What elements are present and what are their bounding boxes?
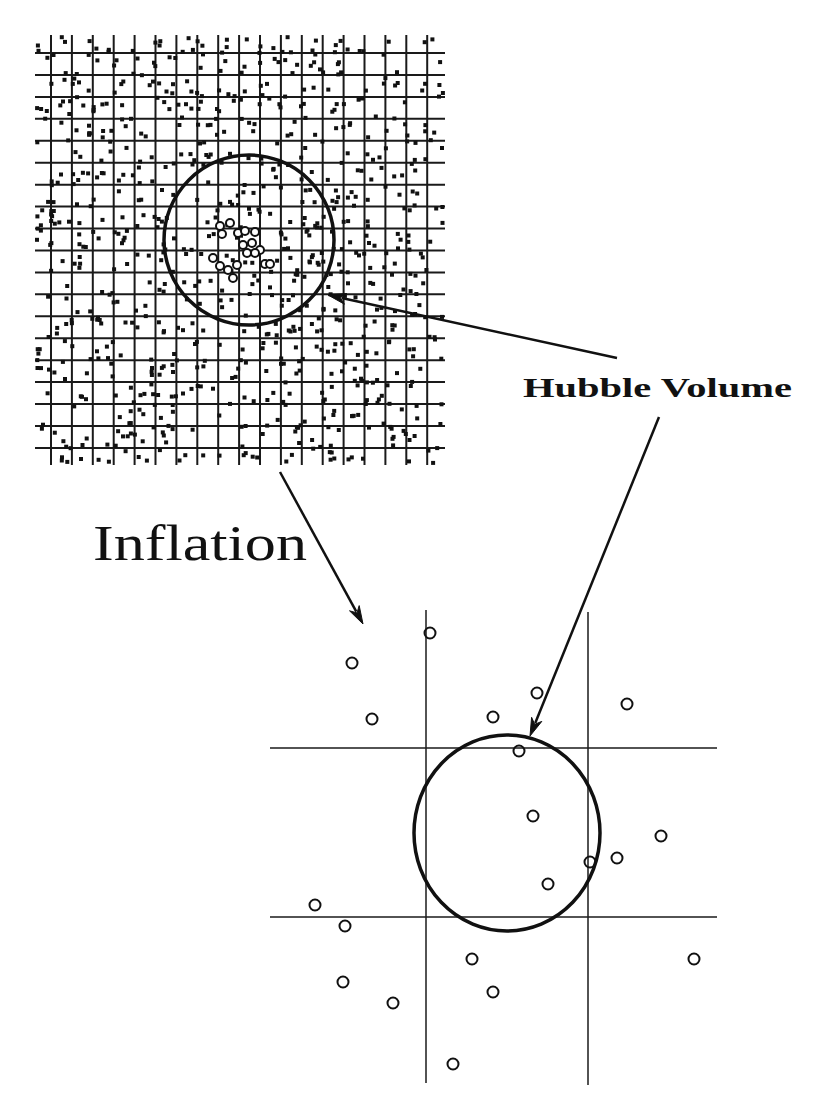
region-dot — [334, 126, 338, 130]
region-dot — [109, 362, 113, 366]
region-dot — [153, 215, 157, 219]
cluster-region-circle — [266, 260, 274, 268]
region-dot — [225, 254, 229, 258]
region-dot — [95, 175, 99, 179]
region-dot — [156, 225, 160, 229]
inflation-label: Inflation — [93, 515, 307, 571]
region-dot — [144, 314, 148, 318]
region-dot — [239, 98, 243, 102]
region-dot — [77, 266, 81, 270]
region-dot — [150, 155, 154, 159]
region-dot — [440, 402, 444, 406]
region-dot — [275, 333, 279, 337]
region-dot — [230, 376, 234, 380]
region-dot — [164, 165, 168, 169]
region-dot — [399, 238, 403, 242]
region-dot — [437, 95, 441, 99]
region-dot — [72, 77, 76, 81]
region-dot — [313, 224, 317, 228]
region-dot — [171, 410, 175, 414]
region-dot — [165, 90, 169, 94]
region-dot — [70, 344, 74, 348]
region-dot — [140, 73, 144, 77]
region-dot — [148, 280, 152, 284]
region-dot — [375, 308, 379, 312]
region-dot — [72, 404, 76, 408]
region-dot — [149, 358, 153, 362]
region-dot — [160, 188, 164, 192]
region-dot — [352, 204, 356, 208]
region-dot — [326, 88, 330, 92]
region-dot — [273, 57, 277, 61]
region-dot — [323, 398, 327, 402]
region-dot — [409, 384, 413, 388]
region-dot — [385, 129, 389, 133]
region-dot — [350, 190, 354, 194]
region-dot — [115, 58, 119, 62]
region-dot — [360, 379, 364, 383]
region-dot — [365, 152, 369, 156]
region-dot — [39, 107, 43, 111]
region-dot — [429, 138, 433, 142]
region-dot — [97, 458, 101, 462]
region-dot — [58, 103, 62, 107]
region-dot — [199, 384, 203, 388]
region-dot — [353, 367, 357, 371]
region-dot — [319, 226, 323, 230]
region-dot — [310, 438, 314, 442]
region-dot — [190, 387, 194, 391]
region-dot — [92, 108, 96, 112]
region-dot — [47, 368, 51, 372]
region-dot — [191, 428, 195, 432]
region-dot — [66, 138, 70, 142]
region-dot — [320, 328, 324, 332]
region-dot — [96, 356, 100, 360]
region-dot — [274, 175, 278, 179]
region-dot — [50, 179, 54, 183]
region-dot — [180, 116, 184, 120]
region-dot — [331, 199, 335, 203]
region-dot — [321, 260, 325, 264]
region-dot — [129, 386, 133, 390]
region-dot — [40, 208, 44, 212]
region-dot — [279, 186, 283, 190]
region-dot — [346, 270, 350, 274]
region-dot — [162, 100, 166, 104]
region-dot — [320, 251, 324, 255]
region-dot — [46, 200, 50, 204]
region-dot — [72, 182, 76, 186]
region-dot — [259, 84, 263, 88]
region-dot — [403, 100, 407, 104]
region-dot — [390, 427, 394, 431]
region-dot — [167, 107, 171, 111]
region-dot — [362, 335, 366, 339]
region-dot — [225, 38, 229, 42]
region-dot — [303, 146, 307, 150]
region-dot — [320, 140, 324, 144]
region-dot — [412, 347, 416, 351]
region-dot — [212, 232, 216, 236]
region-dot — [406, 240, 410, 244]
region-dot — [376, 401, 380, 405]
region-dot — [94, 47, 98, 51]
region-dot — [145, 459, 149, 463]
region-dot — [384, 146, 388, 150]
region-dot — [391, 437, 395, 441]
region-dot — [214, 216, 218, 220]
region-dot — [340, 270, 344, 274]
region-dot — [391, 328, 395, 332]
region-dot — [81, 245, 85, 249]
region-dot — [109, 150, 113, 154]
region-dot — [142, 213, 146, 217]
region-dot — [320, 391, 324, 395]
region-dot — [99, 159, 103, 163]
region-dot — [405, 139, 409, 143]
region-dot — [252, 191, 256, 195]
region-dot — [367, 426, 371, 430]
region-dot — [113, 91, 117, 95]
region-dot — [67, 112, 71, 116]
region-dot — [109, 129, 113, 133]
region-dot — [219, 298, 223, 302]
region-dot — [347, 457, 351, 461]
region-dot — [57, 220, 61, 224]
